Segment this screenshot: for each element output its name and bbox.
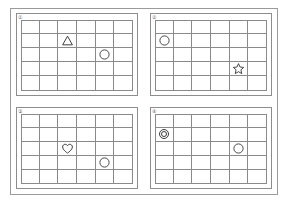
cell-grid-1: [21, 20, 133, 91]
grid-cell: [211, 20, 230, 34]
grid-cell: [21, 76, 40, 90]
panel-box-2: ②: [150, 13, 272, 96]
grid-cell: [96, 20, 115, 34]
grid-cell: [77, 62, 96, 76]
grid-cell: [192, 142, 211, 156]
grid-cell: [174, 128, 193, 142]
grid-cell: [77, 128, 96, 142]
cell-grid-4: [155, 114, 267, 185]
grid-cell: [248, 170, 267, 184]
grid-cell: [58, 170, 77, 184]
grid-cell: [230, 142, 249, 156]
grid-cell: [114, 76, 133, 90]
grid-cell: [192, 48, 211, 62]
grid-cell: [230, 128, 249, 142]
star-icon: [232, 62, 245, 75]
grid-cell: [77, 76, 96, 90]
grid-cell: [96, 128, 115, 142]
grid-cell: [230, 20, 249, 34]
cell-grid-3: [21, 114, 133, 185]
panel-grid: ①②③④: [10, 8, 278, 195]
grid-cell: [40, 48, 59, 62]
circle-icon: [98, 48, 111, 61]
grid-cell: [114, 34, 133, 48]
grid-cell: [21, 114, 40, 128]
grid-cell: [230, 34, 249, 48]
grid-cell: [248, 142, 267, 156]
heart-icon: [61, 142, 74, 155]
panel-label-3: ③: [18, 108, 22, 114]
grid-cell: [174, 20, 193, 34]
grid-cell: [155, 170, 174, 184]
grid-cell: [230, 76, 249, 90]
grid-cell: [58, 48, 77, 62]
grid-cell: [40, 128, 59, 142]
grid-cell: [192, 114, 211, 128]
grid-cell: [211, 170, 230, 184]
grid-cell: [77, 20, 96, 34]
grid-cell: [96, 156, 115, 170]
grid-cell: [40, 142, 59, 156]
grid-cell: [96, 48, 115, 62]
grid-cell: [155, 114, 174, 128]
triangle-icon: [61, 34, 74, 47]
grid-cell: [77, 48, 96, 62]
grid-cell: [230, 48, 249, 62]
grid-cell: [192, 34, 211, 48]
grid-cell: [155, 62, 174, 76]
grid-cell: [248, 156, 267, 170]
grid-cell: [174, 34, 193, 48]
panel-2: ②: [144, 8, 278, 102]
grid-cell: [155, 142, 174, 156]
grid-cell: [21, 20, 40, 34]
grid-cell: [211, 48, 230, 62]
grid-cell: [248, 48, 267, 62]
grid-cell: [40, 114, 59, 128]
grid-cell: [211, 128, 230, 142]
grid-cell: [58, 34, 77, 48]
grid-cell: [248, 34, 267, 48]
grid-cell: [114, 20, 133, 34]
grid-cell: [248, 62, 267, 76]
grid-cell: [21, 34, 40, 48]
grid-cell: [192, 156, 211, 170]
grid-cell: [248, 128, 267, 142]
grid-cell: [114, 142, 133, 156]
grid-cell: [211, 114, 230, 128]
grid-cell: [211, 142, 230, 156]
grid-cell: [192, 20, 211, 34]
grid-cell: [58, 20, 77, 34]
figure-stage: ①②③④: [0, 0, 290, 205]
grid-cell: [96, 76, 115, 90]
grid-cell: [248, 76, 267, 90]
grid-cell: [211, 62, 230, 76]
grid-cell: [77, 114, 96, 128]
panel-3: ③: [10, 102, 144, 196]
grid-cell: [114, 62, 133, 76]
grid-cell: [114, 170, 133, 184]
grid-cell: [174, 156, 193, 170]
grid-cell: [96, 62, 115, 76]
panel-box-4: ④: [150, 107, 272, 190]
grid-cell: [40, 76, 59, 90]
grid-cell: [230, 156, 249, 170]
panel-box-3: ③: [16, 107, 138, 190]
grid-cell: [114, 156, 133, 170]
grid-cell: [40, 34, 59, 48]
grid-cell: [96, 34, 115, 48]
panel-1: ①: [10, 8, 144, 102]
grid-cell: [21, 156, 40, 170]
grid-cell: [114, 48, 133, 62]
grid-cell: [40, 156, 59, 170]
circle-icon: [232, 142, 245, 155]
grid-cell: [58, 156, 77, 170]
panel-4: ④: [144, 102, 278, 196]
grid-cell: [40, 62, 59, 76]
grid-cell: [155, 76, 174, 90]
grid-cell: [40, 20, 59, 34]
grid-cell: [155, 34, 174, 48]
grid-cell: [248, 20, 267, 34]
grid-cell: [211, 76, 230, 90]
grid-cell: [174, 48, 193, 62]
grid-cell: [248, 114, 267, 128]
